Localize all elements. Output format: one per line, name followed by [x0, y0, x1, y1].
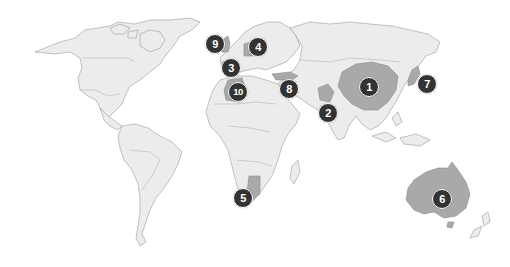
marker-label: 6 [439, 193, 445, 205]
marker-2[interactable]: 2 [318, 103, 338, 123]
marker-label: 10 [233, 86, 243, 97]
marker-label: 3 [228, 62, 234, 74]
marker-8[interactable]: 8 [279, 79, 299, 99]
marker-label: 5 [240, 192, 246, 204]
marker-4[interactable]: 4 [248, 37, 268, 57]
marker-label: 9 [212, 38, 218, 50]
marker-label: 8 [286, 83, 292, 95]
land-new-zealand [470, 212, 490, 238]
marker-1[interactable]: 1 [359, 77, 379, 97]
land-south-america [118, 124, 182, 246]
marker-label: 2 [325, 107, 331, 119]
land-madagascar [290, 160, 300, 184]
marker-10[interactable]: 10 [228, 82, 248, 102]
land-tasmania [447, 222, 454, 228]
marker-6[interactable]: 6 [432, 189, 452, 209]
marker-label: 1 [366, 81, 372, 93]
marker-label: 7 [424, 78, 430, 90]
marker-5[interactable]: 5 [233, 188, 253, 208]
marker-7[interactable]: 7 [417, 74, 437, 94]
marker-9[interactable]: 9 [205, 34, 225, 54]
marker-3[interactable]: 3 [221, 58, 241, 78]
marker-label: 4 [255, 41, 261, 53]
